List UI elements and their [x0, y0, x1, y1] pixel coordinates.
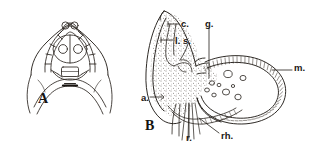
annotation-label-ls: l. s.	[175, 36, 191, 46]
illustration-plate: A B c. l. s. g. m. a. r. rh.	[0, 0, 319, 152]
muscle-hatching	[204, 57, 283, 121]
annotation-label-a: a.	[141, 93, 149, 103]
annotation-label-m: m.	[294, 63, 305, 73]
annotation-label-r: r.	[186, 133, 192, 143]
annotation-label-c: c.	[181, 19, 189, 29]
line-drawing-svg	[0, 0, 319, 152]
annotation-label-g: g.	[205, 19, 213, 29]
figure-label-b: B	[145, 119, 155, 133]
bursa-organ	[197, 56, 286, 124]
figure-b-drawing	[146, 11, 292, 140]
annotation-label-rh: rh.	[221, 131, 233, 141]
figure-label-a: A	[38, 92, 48, 106]
